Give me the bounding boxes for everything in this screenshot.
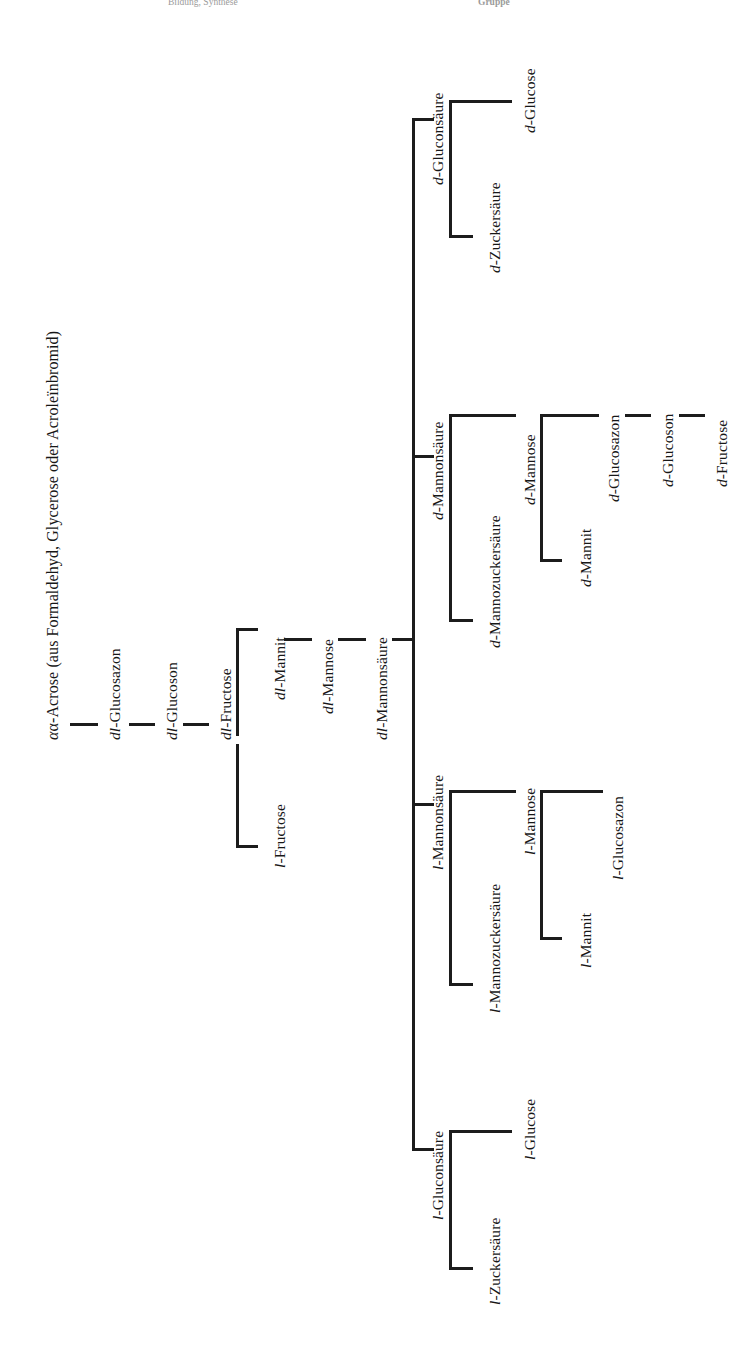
main-bracket-lower-long-arm — [412, 1148, 434, 1151]
bracket-d-mannose-down-arm — [540, 559, 562, 562]
node-l-glucosazon: l-Glucosazon — [610, 796, 626, 880]
node-d-mannit: d-Mannit — [578, 529, 594, 588]
node-root: αα-Acrose (aus Formaldehyd, Glycerose od… — [45, 331, 61, 740]
bracket-l-mannose-up-stem — [540, 790, 543, 826]
node-d-mannose: d-Mannose — [522, 434, 538, 505]
connector-d-glucoson-to-d-fructose — [679, 414, 705, 417]
header-right-text: Gruppe — [478, 0, 510, 7]
node-d-mannonsaeure: d-Mannonsäure — [430, 421, 446, 520]
node-dl-mannose: dl-Mannose — [320, 639, 336, 714]
node-dl-mannit: dl-Mannit — [272, 637, 288, 700]
main-bracket-upper-long-stem — [412, 118, 415, 458]
bracket-dl-fructose-up-stem — [236, 628, 239, 736]
bracket-l-gluconsaeure-down-stem — [449, 1168, 452, 1270]
node-l-mannonsaeure: l-Mannonsäure — [430, 775, 446, 870]
bracket-l-mannose-down-arm — [540, 937, 562, 940]
main-bracket-lower-long-stem — [412, 806, 415, 1151]
bracket-dl-fructose-up-arm — [236, 628, 258, 631]
bracket-d-gluconsaeure-down-arm — [449, 235, 473, 238]
bracket-l-gluconsaeure-up-stem — [449, 1130, 452, 1170]
node-dl-mannonsaeure: dl-Mannonsäure — [374, 637, 390, 740]
bracket-l-mannonsaeure-down-arm — [449, 983, 473, 986]
node-l-fructose: l-Fructose — [272, 804, 288, 868]
connector-d-mannose-to-d-glucosazon — [541, 414, 599, 417]
bracket-l-gluconsaeure-down-arm — [449, 1267, 473, 1270]
connector-d-gluconsaeure-to-d-glucose — [450, 100, 512, 103]
bracket-d-mannonsaeure-down-arm — [449, 619, 473, 622]
bracket-l-mannonsaeure-up-stem — [449, 790, 452, 828]
connector-dl-mannose-to-dl-mannonsaeure — [338, 638, 366, 641]
connector-l-mannose-to-l-glucosazon — [541, 790, 603, 793]
connector-l-gluconsaeure-to-l-glucose — [450, 1130, 512, 1133]
bracket-d-mannose-down-stem — [540, 452, 543, 562]
node-l-glucose: l-Glucose — [522, 1099, 538, 1160]
bracket-dl-fructose-down-stem — [236, 744, 239, 848]
header-left-text: Bildung, Synthese — [168, 0, 238, 7]
node-d-mannozuckersaeure: d-Mannozuckersäure — [487, 515, 503, 648]
bracket-d-gluconsaeure-up-stem — [449, 100, 452, 140]
node-d-fructose: d-Fructose — [714, 420, 730, 487]
connector-dl-mannonsaeure-to-main-split — [392, 638, 414, 641]
bracket-dl-fructose-down-arm — [236, 845, 258, 848]
bracket-d-gluconsaeure-down-stem — [449, 138, 452, 238]
node-l-mannit: l-Mannit — [578, 913, 594, 968]
connector-dl-glucosazon-to-dl-glucoson — [129, 723, 155, 726]
node-dl-glucoson: dl-Glucoson — [164, 662, 180, 740]
node-l-gluconsaeure: l-Gluconsäure — [430, 1131, 446, 1220]
bracket-d-mannonsaeure-up-stem — [449, 414, 452, 464]
node-l-mannose: l-Mannose — [522, 788, 538, 855]
node-l-zuckersaeure: l-Zuckersäure — [487, 1218, 503, 1305]
main-bracket-down-stem — [412, 638, 415, 806]
connector-l-mannonsaeure-to-l-mannose — [450, 790, 516, 793]
node-d-zuckersaeure: d-Zuckersäure — [487, 182, 503, 273]
node-d-glucosazon: d-Glucosazon — [606, 415, 622, 502]
connector-dl-mannit-to-dl-mannose — [284, 638, 312, 641]
bracket-d-mannonsaeure-down-stem — [449, 462, 452, 622]
node-d-gluconsaeure: d-Gluconsäure — [430, 92, 446, 185]
bracket-l-mannose-down-stem — [540, 824, 543, 940]
node-d-glucoson: d-Glucoson — [660, 414, 676, 487]
main-bracket-upper-long-arm — [412, 118, 434, 121]
page-header-strip: Bildung, Synthese Gruppe — [0, 0, 755, 14]
node-dl-fructose: dl-Fructose — [218, 668, 234, 740]
connector-dl-glucoson-to-dl-fructose — [183, 723, 209, 726]
main-bracket-up-stem — [412, 455, 415, 640]
node-l-mannozuckersaeure: l-Mannozuckersäure — [487, 884, 503, 1013]
node-dl-glucosazon: dl-Glucosazon — [107, 648, 123, 740]
node-d-glucose: d-Glucose — [522, 68, 538, 133]
connector-d-glucosazon-to-d-glucoson — [625, 414, 651, 417]
connector-root-to-dl-glucosazon — [70, 723, 98, 726]
diagram-page: Bildung, Synthese Gruppe αα-Acrose (aus … — [0, 0, 755, 1364]
bracket-d-mannose-up-stem — [540, 414, 543, 454]
bracket-l-mannonsaeure-down-stem — [449, 826, 452, 986]
connector-d-mannonsaeure-to-d-mannose — [450, 414, 516, 417]
